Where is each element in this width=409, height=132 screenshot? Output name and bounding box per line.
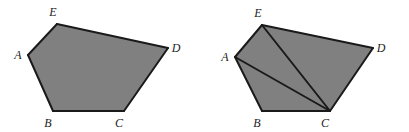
geometry-figure-container: AEDCB AEDCB bbox=[0, 0, 409, 132]
vertex-label-e: E bbox=[48, 5, 57, 19]
vertex-label-c: C bbox=[115, 116, 124, 130]
vertex-label-c: C bbox=[321, 116, 330, 130]
vertex-label-d: D bbox=[171, 41, 181, 55]
figure-right-pentagon: AEDCB bbox=[220, 6, 385, 130]
vertex-label-b: B bbox=[253, 116, 261, 130]
figure-left-pentagon: AEDCB bbox=[13, 5, 180, 130]
vertex-label-b: B bbox=[44, 116, 52, 130]
geometry-diagram-svg: AEDCB AEDCB bbox=[0, 0, 409, 132]
vertex-label-e: E bbox=[253, 6, 262, 20]
vertex-label-d: D bbox=[376, 41, 386, 55]
vertex-label-a: A bbox=[220, 50, 229, 64]
pentagon-abcde-plain-fill bbox=[28, 24, 168, 111]
vertex-label-a: A bbox=[13, 48, 22, 62]
